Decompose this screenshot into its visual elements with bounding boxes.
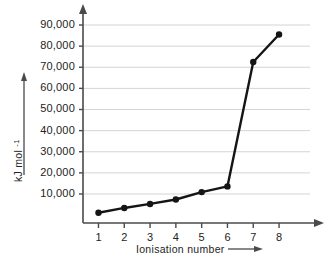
y-tick-label: 10,000 (40, 187, 75, 199)
y-tick-label: 40,000 (40, 124, 75, 136)
x-tick-label: 2 (121, 231, 127, 243)
x-tick-label: 8 (276, 231, 282, 243)
data-point-marker (147, 201, 153, 207)
y-tick-label: 80,000 (40, 39, 75, 51)
y-tick-labels-group: 10,00020,00030,00040,00050,00060,00070,0… (40, 18, 75, 199)
x-axis-title: Ionisation number (136, 243, 225, 255)
x-tick-label: 7 (250, 231, 256, 243)
chart-canvas: 10,00020,00030,00040,00050,00060,00070,0… (0, 0, 328, 262)
x-tick-label: 4 (173, 231, 179, 243)
y-tick-label: 30,000 (40, 145, 75, 157)
y-tick-label: 20,000 (40, 166, 75, 178)
x-tick-label: 3 (147, 231, 153, 243)
data-point-marker (121, 205, 127, 211)
data-point-marker (173, 196, 179, 202)
data-point-marker (224, 183, 230, 189)
ionisation-energy-line-chart: 10,00020,00030,00040,00050,00060,00070,0… (0, 0, 328, 262)
data-point-marker (250, 59, 256, 65)
y-tick-label: 60,000 (40, 81, 75, 93)
data-point-marker (95, 210, 101, 216)
x-tick-label: 6 (224, 231, 230, 243)
data-point-marker (276, 31, 282, 37)
x-tick-label: 1 (95, 231, 101, 243)
x-tick-label: 5 (199, 231, 205, 243)
data-point-marker (198, 189, 204, 195)
y-tick-label: 90,000 (40, 18, 75, 30)
y-tick-label: 50,000 (40, 102, 75, 114)
y-tick-label: 70,000 (40, 60, 75, 72)
